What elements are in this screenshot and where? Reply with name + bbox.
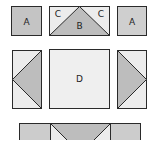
piece-bottom-left [20,124,51,141]
side-unit-left [13,51,42,109]
label-a-left: A [23,17,30,27]
label-c-right: C [98,9,104,19]
middle-row: D [13,50,147,109]
piece-bc-unit: C B C [50,7,110,36]
bottom-row [20,124,141,141]
top-row: A C B C A [12,7,147,36]
label-a-right: A [129,17,136,27]
side-unit-right [118,51,147,109]
piece-bottom-right [111,124,141,141]
label-b: B [76,21,82,31]
quilt-diagram: A C B C A D [0,0,155,140]
label-d: D [76,74,83,84]
label-c-left: C [55,9,61,19]
